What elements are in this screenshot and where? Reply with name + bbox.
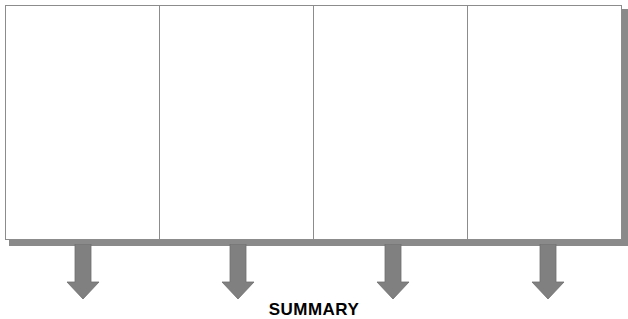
column-1 [6, 6, 160, 239]
down-arrow-icon [66, 244, 100, 300]
down-arrow-icon [221, 244, 255, 300]
column-3 [314, 6, 468, 239]
four-column-box [5, 5, 622, 240]
column-4 [468, 6, 621, 239]
down-arrow-icon [531, 244, 565, 300]
column-2 [160, 6, 314, 239]
summary-label: SUMMARY [0, 300, 628, 319]
down-arrow-icon [376, 244, 410, 300]
